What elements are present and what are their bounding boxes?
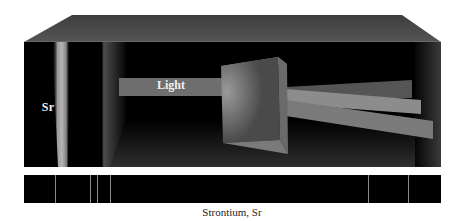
- emission-line: [55, 175, 56, 203]
- emission-line: [110, 175, 111, 203]
- figure-caption: Strontium, Sr: [0, 206, 464, 218]
- light-beam-label: Light: [119, 78, 223, 93]
- emission-line: [408, 175, 409, 203]
- line-spectrum: [24, 175, 441, 203]
- emission-line: [97, 175, 98, 203]
- box-top-face: [24, 15, 441, 42]
- source-label: Sr: [30, 100, 66, 115]
- emission-line: [368, 175, 369, 203]
- emission-line: [90, 175, 91, 203]
- emission-spectrum-diagram: Sr Light Strontium, Sr: [0, 0, 464, 221]
- prism-front: [221, 57, 280, 143]
